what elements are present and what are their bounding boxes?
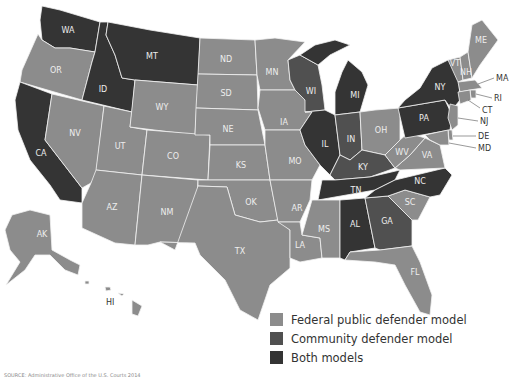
label-UT: UT xyxy=(115,142,126,151)
label-ID: ID xyxy=(99,85,108,94)
legend-label: Federal public defender model xyxy=(291,313,467,327)
label-WI: WI xyxy=(306,87,316,96)
label-TN: TN xyxy=(350,186,362,195)
label-DE: DE xyxy=(478,132,489,141)
legend-swatch-community xyxy=(270,332,283,345)
state-ME[interactable] xyxy=(468,20,498,78)
label-VA: VA xyxy=(422,151,433,160)
label-WA: WA xyxy=(62,26,75,35)
label-NY: NY xyxy=(435,83,446,92)
label-GA: GA xyxy=(381,217,393,226)
label-CO: CO xyxy=(167,152,179,161)
label-PA: PA xyxy=(419,114,429,123)
map-legend: Federal public defender model Community … xyxy=(270,310,467,367)
label-CA: CA xyxy=(35,149,47,158)
label-NM: NM xyxy=(161,208,174,217)
label-CT: CT xyxy=(482,106,493,115)
legend-item-both: Both models xyxy=(270,348,467,367)
label-IA: IA xyxy=(280,118,288,127)
label-NH: NH xyxy=(460,68,472,77)
state-AK[interactable] xyxy=(5,210,80,285)
label-TX: TX xyxy=(234,247,246,256)
label-MN: MN xyxy=(266,68,279,77)
state-FL[interactable] xyxy=(345,246,432,315)
label-VT: VT xyxy=(450,59,460,68)
legend-label: Both models xyxy=(291,351,363,365)
label-AK: AK xyxy=(37,230,48,239)
label-IL: IL xyxy=(322,140,329,149)
label-MD: MD xyxy=(478,144,491,153)
label-NV: NV xyxy=(69,129,81,138)
label-ND: ND xyxy=(220,55,232,64)
legend-item-federal: Federal public defender model xyxy=(270,310,467,329)
label-OK: OK xyxy=(245,198,257,207)
state-CT[interactable] xyxy=(458,90,471,104)
label-MO: MO xyxy=(288,157,301,166)
label-NJ: NJ xyxy=(480,117,488,126)
label-MT: MT xyxy=(146,52,158,61)
label-SD: SD xyxy=(220,89,231,98)
legend-swatch-federal xyxy=(270,313,283,326)
label-LA: LA xyxy=(295,241,306,250)
label-AZ: AZ xyxy=(107,203,118,212)
label-NC: NC xyxy=(414,177,426,186)
label-MA: MA xyxy=(496,74,509,83)
label-MS: MS xyxy=(318,225,330,234)
label-MI: MI xyxy=(350,91,359,100)
label-NE: NE xyxy=(222,125,233,134)
label-OR: OR xyxy=(50,66,62,75)
label-WY: WY xyxy=(156,103,169,112)
legend-item-community: Community defender model xyxy=(270,329,467,348)
label-WV: WV xyxy=(395,148,409,157)
label-KS: KS xyxy=(236,161,246,170)
label-ME: ME xyxy=(475,36,487,45)
label-IN: IN xyxy=(347,135,355,144)
label-FL: FL xyxy=(410,268,420,277)
label-AR: AR xyxy=(291,204,302,213)
source-note: SOURCE: Administrative Office of the U.S… xyxy=(4,372,141,378)
label-SC: SC xyxy=(405,198,416,207)
label-HI: HI xyxy=(106,298,114,307)
label-AL: AL xyxy=(350,220,360,229)
legend-label: Community defender model xyxy=(291,332,453,346)
label-RI: RI xyxy=(494,94,502,103)
legend-swatch-both xyxy=(270,351,283,364)
label-OH: OH xyxy=(375,126,387,135)
label-KY: KY xyxy=(358,163,368,172)
